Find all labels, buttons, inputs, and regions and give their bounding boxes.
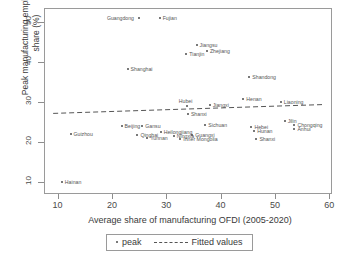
y-tick-label: 10 xyxy=(24,173,33,189)
scatter-point xyxy=(138,17,140,19)
x-tick-label: 40 xyxy=(211,200,231,210)
point-label: Inner Mongolia xyxy=(183,136,217,142)
x-tick-mark xyxy=(166,194,167,199)
point-label: Guangdong xyxy=(107,15,134,21)
x-tick-mark xyxy=(221,194,222,199)
point-label: Gansu xyxy=(145,123,160,129)
scatter-point xyxy=(160,131,162,133)
chart-legend: peak Fitted values xyxy=(106,234,253,251)
y-tick-label: 30 xyxy=(24,93,33,109)
point-label: Shanxi xyxy=(259,136,275,142)
point-label: Liaoning xyxy=(284,99,304,105)
legend-item-peak: peak xyxy=(116,237,142,247)
point-label: Jiangxi xyxy=(213,102,229,108)
fitted-line-icon xyxy=(154,242,188,243)
scatter-point xyxy=(159,17,161,19)
legend-label-peak: peak xyxy=(122,237,142,247)
point-label: Shanghai xyxy=(131,66,153,72)
x-tick-label: 30 xyxy=(156,200,176,210)
plot-area: GuangdongFujianJiangsuZhejiangTianjinSha… xyxy=(44,8,332,194)
point-label: Tianjin xyxy=(189,51,204,57)
point-label: Hubei xyxy=(179,98,193,104)
peak-marker-icon xyxy=(116,241,118,243)
scatter-point xyxy=(206,50,208,52)
scatter-point xyxy=(127,68,129,70)
point-label: Hainan xyxy=(65,179,81,185)
y-tick-label: 20 xyxy=(24,133,33,149)
scatter-point xyxy=(186,105,188,107)
y-tick-label: 40 xyxy=(24,53,33,69)
point-label: Jilin xyxy=(288,118,297,124)
point-label: Sichuan xyxy=(208,122,227,128)
point-label: Guizhou xyxy=(74,131,93,137)
chart-root: Peak manufacturing employment share (%) … xyxy=(0,0,360,259)
point-label: Zhejiang xyxy=(210,48,230,54)
point-label: Shandong xyxy=(252,74,276,80)
scatter-point xyxy=(70,133,72,135)
scatter-point xyxy=(173,135,175,137)
x-tick-mark xyxy=(275,194,276,199)
legend-item-fitted: Fitted values xyxy=(154,237,243,247)
point-label: Henan xyxy=(246,96,261,102)
x-tick-mark xyxy=(329,194,330,199)
point-label: Hunan xyxy=(257,128,272,134)
scatter-point xyxy=(61,181,63,183)
x-tick-label: 60 xyxy=(319,200,339,210)
x-tick-mark xyxy=(58,194,59,199)
x-tick-label: 50 xyxy=(265,200,285,210)
point-label: Yunnan xyxy=(150,135,168,141)
point-label: Shanxi xyxy=(191,111,207,117)
scatter-point xyxy=(284,120,286,122)
x-tick-label: 10 xyxy=(48,200,68,210)
point-label: Anhui xyxy=(297,126,310,132)
y-tick-label: 50 xyxy=(24,13,33,29)
scatter-point xyxy=(209,104,211,106)
point-label: Beijing xyxy=(125,123,141,129)
x-tick-mark xyxy=(112,194,113,199)
x-tick-label: 20 xyxy=(102,200,122,210)
point-label: Fujian xyxy=(163,15,177,21)
scatter-point xyxy=(121,125,123,127)
legend-label-fitted: Fitted values xyxy=(192,237,243,247)
x-axis-title: Average share of manufacturing OFDI (200… xyxy=(40,215,340,225)
